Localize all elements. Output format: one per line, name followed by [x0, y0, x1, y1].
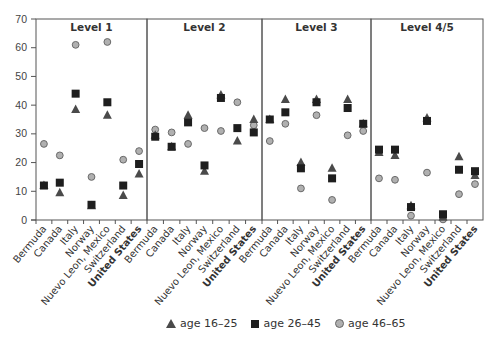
data-point-square: [72, 90, 80, 98]
data-point-square: [233, 124, 241, 132]
data-point-square: [88, 201, 96, 209]
data-point-square: [201, 161, 209, 169]
data-point-square: [135, 160, 143, 168]
data-point-triangle: [184, 110, 193, 119]
data-point-triangle: [328, 163, 337, 172]
panel-frame: [147, 19, 262, 220]
data-point-square: [391, 146, 399, 154]
data-point-square: [40, 182, 48, 190]
data-point-circle: [392, 176, 399, 183]
data-point-circle: [72, 41, 79, 48]
panel-title: Level 1: [70, 21, 112, 33]
data-point-square: [184, 118, 192, 126]
legend-item-age-16-25: age 16–25: [166, 317, 237, 330]
data-point-triangle: [119, 191, 128, 200]
data-point-circle: [282, 120, 289, 127]
data-point-circle: [218, 128, 225, 135]
legend-label: age 46–65: [348, 317, 405, 330]
data-point-square: [250, 128, 258, 136]
data-point-circle: [344, 132, 351, 139]
panel-3: Level 3BermudaCanadaItalyNorwayNuevo Leo…: [237, 19, 371, 307]
data-point-square: [103, 98, 111, 106]
panel-title: Level 3: [295, 21, 337, 33]
data-point-triangle: [455, 152, 464, 161]
data-point-square: [375, 146, 383, 154]
data-point-circle: [456, 191, 463, 198]
panel-title: Level 2: [183, 21, 225, 33]
legend-label: age 16–25: [180, 317, 237, 330]
data-point-circle: [424, 169, 431, 176]
data-point-circle: [329, 197, 336, 204]
data-point-square: [328, 174, 336, 182]
data-point-circle: [360, 128, 367, 135]
data-point-triangle: [103, 110, 112, 119]
y-tick-label: 10: [15, 185, 27, 197]
data-point-circle: [168, 129, 175, 136]
data-point-circle: [298, 185, 305, 192]
data-point-square: [423, 117, 431, 125]
data-point-circle: [185, 141, 192, 148]
data-point-square: [119, 182, 127, 190]
circle-marker-icon: [335, 319, 344, 328]
data-point-square: [297, 164, 305, 172]
data-point-circle: [472, 181, 479, 188]
data-point-circle: [266, 138, 273, 145]
y-axis: 010203040506070: [15, 13, 36, 226]
data-point-triangle: [135, 169, 144, 178]
y-tick-label: 0: [21, 214, 27, 226]
data-point-circle: [120, 156, 127, 163]
data-point-square: [217, 94, 225, 102]
triangle-marker-icon: [166, 319, 176, 328]
data-point-square: [281, 108, 289, 116]
data-point-circle: [234, 99, 241, 106]
data-point-square: [266, 116, 274, 124]
data-point-triangle: [281, 94, 290, 103]
legend: age 16–25 age 26–45 age 46–65: [166, 317, 405, 330]
data-point-circle: [56, 152, 63, 159]
data-point-square: [439, 210, 447, 218]
data-point-circle: [88, 174, 95, 181]
square-marker-icon: [251, 320, 259, 328]
data-point-square: [151, 133, 159, 141]
y-tick-label: 30: [15, 127, 27, 139]
y-tick-label: 20: [15, 156, 27, 168]
data-point-triangle: [249, 115, 258, 124]
data-point-square: [407, 203, 415, 211]
data-point-triangle: [71, 104, 80, 113]
panel-frame: [262, 19, 371, 220]
data-point-triangle: [233, 136, 242, 145]
data-point-square: [344, 104, 352, 112]
data-point-circle: [376, 175, 383, 182]
data-point-circle: [201, 125, 208, 132]
data-point-circle: [104, 39, 111, 46]
panel-1: Level 1BermudaCanadaItalyNorwayNuevo Leo…: [11, 19, 147, 307]
data-point-circle: [313, 112, 320, 119]
data-point-circle: [408, 212, 415, 219]
data-point-triangle: [343, 94, 352, 103]
data-point-square: [455, 166, 463, 174]
y-tick-label: 60: [15, 41, 27, 53]
data-point-square: [168, 143, 176, 151]
data-point-square: [56, 179, 64, 187]
legend-item-age-46-65: age 46–65: [335, 317, 405, 330]
data-point-circle: [136, 148, 143, 155]
y-tick-label: 70: [15, 13, 27, 25]
panel-4: Level 4/5BermudaCanadaItalyNorwayNuevo L…: [346, 19, 483, 307]
y-tick-label: 50: [15, 70, 27, 82]
panel-title: Level 4/5: [400, 21, 453, 33]
data-point-square: [471, 167, 479, 175]
legend-item-age-26-45: age 26–45: [251, 317, 320, 330]
legend-label: age 26–45: [263, 317, 320, 330]
chart-area: 010203040506070Level 1BermudaCanadaItaly…: [0, 0, 493, 340]
data-point-triangle: [55, 188, 64, 197]
data-point-square: [313, 98, 321, 106]
y-tick-label: 40: [15, 99, 27, 111]
data-point-square: [359, 120, 367, 128]
data-point-circle: [41, 141, 48, 148]
panel-frame: [36, 19, 147, 220]
